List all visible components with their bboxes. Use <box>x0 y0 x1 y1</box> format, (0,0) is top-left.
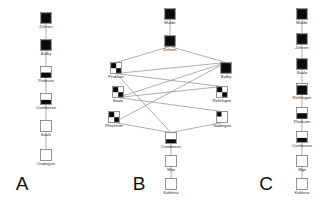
graph-node[interactable]: Rehlingen <box>213 87 233 104</box>
panel-letters-layer: ABC <box>16 173 273 194</box>
node-label: Gödingen <box>213 123 232 128</box>
node-fill <box>165 9 175 19</box>
node-label: Probsen <box>38 78 54 83</box>
node-box <box>297 156 308 167</box>
node-fill-secondary <box>114 117 119 122</box>
graph-edge <box>114 63 226 123</box>
node-fill <box>111 63 116 68</box>
node-fill <box>41 73 51 78</box>
graph-node[interactable]: Zehren <box>163 36 177 53</box>
node-fill <box>297 113 307 118</box>
node-label: Zehren <box>39 24 53 29</box>
graph-node[interactable]: Cumbosen <box>292 132 313 149</box>
panel-letter-c: C <box>259 173 273 194</box>
node-label: Oudingen <box>37 161 56 166</box>
node-fill <box>41 13 51 23</box>
graph-node[interactable]: Mulde <box>296 9 308 26</box>
graph-node[interactable]: Oudingen <box>37 150 56 167</box>
node-label: Saale <box>41 132 52 137</box>
graph-node[interactable]: Probsen <box>38 67 54 84</box>
graph-edge <box>118 98 222 112</box>
node-box <box>166 156 177 167</box>
node-fill <box>297 59 307 69</box>
node-label: Saale <box>113 98 124 103</box>
node-label: Wipi <box>298 167 306 172</box>
graph-edge <box>116 74 171 133</box>
node-label: Mulde <box>164 20 176 25</box>
graph-node[interactable]: Balby <box>41 40 53 57</box>
panel-letter-a: A <box>16 173 29 194</box>
graph-node[interactable]: Saale <box>41 121 53 138</box>
graph-node[interactable]: Saale <box>113 87 125 104</box>
node-label: Balby <box>221 74 232 79</box>
graph-node[interactable]: Pfezheim <box>105 112 123 129</box>
node-box <box>297 179 308 190</box>
node-label: Wipi <box>167 167 175 172</box>
node-label: Probsen <box>108 74 124 79</box>
panel-letter-b: B <box>133 173 146 194</box>
graph-node[interactable]: Mulde <box>164 9 176 26</box>
node-fill-secondary <box>222 92 227 97</box>
node-label: Koblenz <box>294 190 309 195</box>
node-box <box>41 150 52 161</box>
node-fill-secondary <box>116 68 121 73</box>
node-label: Saale <box>297 70 308 75</box>
node-label: Cumbosen <box>161 144 182 149</box>
graph-node[interactable]: Probsen <box>108 63 124 80</box>
node-fill <box>109 112 114 117</box>
node-label: Koblenz <box>163 190 178 195</box>
node-label: Cumbosen <box>292 143 313 148</box>
node-fill <box>217 112 221 116</box>
node-label: Cumbosen <box>36 105 57 110</box>
node-label: Balby <box>41 51 52 56</box>
node-label: Zehren <box>163 47 177 52</box>
graph-node[interactable]: Zehren <box>39 13 53 30</box>
graph-node[interactable]: Wipi <box>166 156 177 173</box>
figure-container: ZehrenBalbyProbsenCumbosenSaaleOudingenM… <box>0 0 328 202</box>
network-diagram-svg: ZehrenBalbyProbsenCumbosenSaaleOudingenM… <box>0 0 328 202</box>
node-fill <box>41 40 51 50</box>
node-fill <box>113 87 118 92</box>
node-box <box>166 179 177 190</box>
graph-node[interactable]: Balby <box>221 63 233 80</box>
node-fill <box>297 138 307 142</box>
graph-edge <box>170 47 226 63</box>
node-box <box>41 121 52 132</box>
graph-node[interactable]: Koblenz <box>163 179 178 196</box>
node-fill <box>165 36 175 46</box>
node-fill <box>297 34 307 44</box>
node-label: Zehren <box>295 45 309 50</box>
node-fill <box>41 100 51 104</box>
graph-node[interactable]: Rehlingen <box>293 84 313 101</box>
graph-node[interactable]: Cumbosen <box>161 133 182 150</box>
graph-node[interactable]: Gödingen <box>213 112 232 129</box>
node-fill <box>297 85 307 94</box>
graph-edge <box>116 74 222 87</box>
graph-node[interactable]: Wipi <box>297 156 308 173</box>
graph-node[interactable]: Koblenz <box>294 179 309 196</box>
nodes-layer: ZehrenBalbyProbsenCumbosenSaaleOudingenM… <box>36 9 313 196</box>
graph-node[interactable]: Saale <box>297 59 309 76</box>
node-label: Pfezheim <box>105 123 123 128</box>
node-fill <box>221 63 231 73</box>
graph-node[interactable]: Cumbosen <box>36 94 57 111</box>
graph-node[interactable]: Zehren <box>295 34 309 51</box>
node-fill-secondary <box>118 92 123 97</box>
node-label: Rehlingen <box>293 95 313 100</box>
graph-node[interactable]: Pfedsom <box>294 108 311 125</box>
node-label: Rehlingen <box>213 98 233 103</box>
node-label: Mulde <box>296 20 308 25</box>
node-fill <box>297 9 307 19</box>
node-fill <box>217 87 222 92</box>
node-fill <box>166 139 176 143</box>
graph-edge <box>116 47 170 63</box>
node-label: Pfedsom <box>294 119 311 124</box>
